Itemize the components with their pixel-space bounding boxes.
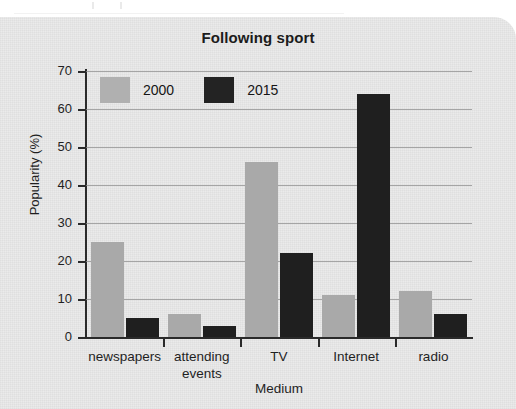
y-tick-label: 60: [38, 101, 72, 116]
x-axis-line: [85, 337, 473, 339]
bar-2000-radio: [399, 291, 432, 337]
y-tick-label: 0: [38, 329, 72, 344]
y-tick-label: 10: [38, 291, 72, 306]
bar-2015-TV: [280, 253, 313, 337]
legend-swatch-2015-icon: [204, 77, 234, 103]
plot-area: 2000 2015: [86, 71, 472, 337]
legend-label-2015: 2015: [247, 82, 278, 98]
gridline: [86, 71, 472, 72]
x-tick-label-Internet: Internet: [318, 348, 395, 365]
legend-label-2000: 2000: [143, 82, 174, 98]
gridline: [86, 185, 472, 186]
x-tick-mark: [395, 338, 397, 347]
bar-2015-radio: [434, 314, 467, 337]
gridline: [86, 261, 472, 262]
chart-legend: 2000 2015: [100, 77, 308, 103]
bar-2000-Internet: [322, 295, 355, 337]
x-tick-mark: [240, 338, 242, 347]
y-tick-label: 30: [38, 215, 72, 230]
gridline: [86, 223, 472, 224]
x-tick-label-TV: TV: [240, 348, 317, 365]
x-tick-label-radio: radio: [395, 348, 472, 365]
bar-2000-TV: [245, 162, 278, 337]
y-tick-label: 50: [38, 139, 72, 154]
x-tick-label-attending-events: attendingevents: [163, 348, 240, 382]
x-axis-title: Medium: [86, 381, 472, 396]
legend-swatch-2000-icon: [100, 77, 130, 103]
y-tick-mark: [78, 147, 86, 149]
bar-2000-attending-events: [168, 314, 201, 337]
bar-2015-newspapers: [126, 318, 159, 337]
chart-title: Following sport: [0, 29, 516, 46]
x-tick-mark: [318, 338, 320, 347]
legend-item-2015: 2015: [204, 77, 308, 103]
bar-2015-attending-events: [203, 326, 236, 337]
legend-item-2000: 2000: [100, 77, 204, 103]
y-tick-mark: [78, 223, 86, 225]
bar-2000-newspapers: [91, 242, 124, 337]
y-tick-mark: [78, 71, 86, 73]
y-tick-mark: [78, 109, 86, 111]
y-tick-label: 20: [38, 253, 72, 268]
gridline: [86, 147, 472, 148]
y-tick-mark: [78, 299, 86, 301]
y-tick-label: 40: [38, 177, 72, 192]
x-tick-label-newspapers: newspapers: [86, 348, 163, 365]
bar-2015-Internet: [357, 94, 390, 337]
y-tick-label: 70: [38, 63, 72, 78]
page-top-artifact: [0, 0, 516, 17]
y-tick-mark: [78, 337, 86, 339]
gridline: [86, 109, 472, 110]
x-tick-mark: [163, 338, 165, 347]
y-tick-mark: [78, 261, 86, 263]
y-tick-mark: [78, 185, 86, 187]
chart-panel: Following sport Popularity (%) 010203040…: [0, 17, 516, 409]
